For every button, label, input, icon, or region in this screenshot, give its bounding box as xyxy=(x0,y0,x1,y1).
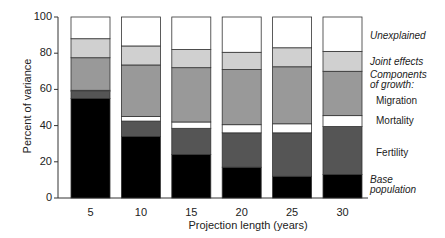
bar-segment xyxy=(222,125,261,133)
y-tick-label: 100 xyxy=(30,10,52,22)
bar-segment xyxy=(71,58,110,91)
x-axis-label: Projection length (years) xyxy=(148,219,348,231)
legend-migration: Migration xyxy=(376,96,417,106)
bar-segment xyxy=(172,50,211,68)
bar-segment xyxy=(222,52,261,69)
x-tick-label: 5 xyxy=(71,206,111,218)
y-tick-label: 60 xyxy=(30,82,52,94)
bar-segment xyxy=(222,69,261,124)
bar-segment xyxy=(121,46,160,65)
x-tick-label: 10 xyxy=(121,206,161,218)
legend-mortality: Mortality xyxy=(376,116,414,126)
bar-10 xyxy=(121,17,160,198)
bar-segment xyxy=(172,17,211,50)
bar-25 xyxy=(273,17,312,198)
bar-segment xyxy=(273,176,312,198)
bar-segment xyxy=(71,98,110,198)
x-tick-label: 15 xyxy=(171,206,211,218)
x-tick-label: 30 xyxy=(323,206,363,218)
bar-segment xyxy=(71,17,110,39)
y-tick-label: 20 xyxy=(30,155,52,167)
bar-segment xyxy=(273,17,312,48)
bar-segment xyxy=(323,51,362,71)
legend-fertility: Fertility xyxy=(376,148,408,158)
bar-segment xyxy=(172,128,211,154)
bar-5 xyxy=(71,17,110,198)
bar-segment xyxy=(121,117,160,122)
bar-segment xyxy=(172,155,211,198)
bar-segment xyxy=(172,68,211,122)
legend-unexplained: Unexplained xyxy=(370,31,426,41)
y-tick-label: 0 xyxy=(30,191,52,203)
bar-segment xyxy=(121,121,160,136)
x-tick-label: 25 xyxy=(272,206,312,218)
bar-segment xyxy=(172,122,211,128)
bar-segment xyxy=(222,17,261,52)
bar-segment xyxy=(71,91,110,98)
y-axis-label: Percent of variance xyxy=(21,51,33,161)
bar-segment xyxy=(71,39,110,58)
bar-segment xyxy=(121,17,160,46)
bar-segment xyxy=(323,116,362,127)
bar-segment xyxy=(273,67,312,124)
bar-segment xyxy=(323,71,362,115)
bar-segment xyxy=(222,167,261,198)
x-tick-label: 20 xyxy=(222,206,262,218)
bar-30 xyxy=(323,17,362,198)
legend-base-population-2: population xyxy=(370,185,416,195)
stacked-bar-chart: Percent of variance Projection length (y… xyxy=(0,0,445,238)
bar-20 xyxy=(222,17,261,198)
bar-segment xyxy=(121,136,160,198)
bar-segment xyxy=(273,48,312,67)
bar-segment xyxy=(273,133,312,176)
bar-segment xyxy=(121,65,160,117)
bar-segment xyxy=(323,17,362,51)
legend-joint-effects: Joint effects xyxy=(370,57,423,67)
y-tick-label: 80 xyxy=(30,46,52,58)
bar-segment xyxy=(273,124,312,133)
y-tick-label: 40 xyxy=(30,119,52,131)
legend-components-subtitle: of growth: xyxy=(370,80,414,90)
bar-segment xyxy=(222,133,261,167)
bar-segment xyxy=(323,127,362,175)
bar-segment xyxy=(323,174,362,198)
bar-15 xyxy=(172,17,211,198)
